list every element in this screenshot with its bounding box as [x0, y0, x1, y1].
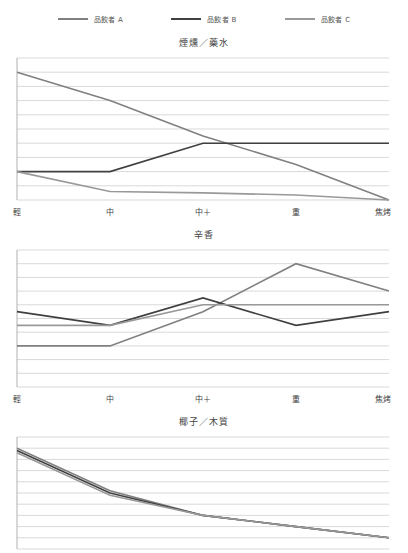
plot-svg-coconut-woody [0, 433, 408, 553]
plot-svg-spicy [0, 246, 408, 391]
legend-item-taster-c: 品飲者 C [285, 14, 351, 24]
x-tick-label: 中＋ [195, 393, 211, 404]
x-tick-label: 重 [292, 206, 300, 217]
chart-coconut-woody: 椰子／木質 [0, 409, 408, 553]
legend-swatch-taster-a [58, 18, 88, 20]
series-line-a [17, 72, 389, 200]
legend-swatch-taster-b [171, 18, 201, 20]
legend-item-taster-b: 品飲者 B [171, 14, 237, 24]
chart-title-coconut-woody: 椰子／木質 [0, 409, 408, 433]
series-line-b [17, 450, 389, 537]
legend-item-taster-a: 品飲者 A [58, 14, 124, 24]
chart-spicy: 辛香 輕中中＋重焦烤 [0, 222, 408, 409]
plot-svg-smoky-medicinal [0, 54, 408, 204]
chart-legend: 品飲者 A 品飲者 B 品飲者 C [0, 0, 408, 30]
x-tick-label: 中 [106, 206, 114, 217]
x-axis-spicy: 輕中中＋重焦烤 [0, 391, 408, 409]
x-tick-label: 重 [292, 393, 300, 404]
x-tick-label: 輕 [13, 393, 21, 404]
plot-area-spicy [0, 246, 408, 391]
chart-smoky-medicinal: 煙燻／藥水 輕中中＋重焦烤 [0, 30, 408, 222]
x-tick-label: 輕 [13, 206, 21, 217]
chart-title-smoky-medicinal: 煙燻／藥水 [0, 30, 408, 54]
x-tick-label: 中＋ [195, 206, 211, 217]
x-axis-smoky-medicinal: 輕中中＋重焦烤 [0, 204, 408, 222]
legend-label-taster-c: 品飲者 C [321, 14, 351, 24]
series-line-c [17, 305, 389, 326]
series-line-c [17, 453, 389, 538]
legend-swatch-taster-c [285, 18, 315, 20]
legend-label-taster-a: 品飲者 A [94, 14, 124, 24]
x-tick-label: 焦烤 [375, 206, 391, 217]
plot-area-coconut-woody [0, 433, 408, 553]
x-tick-label: 焦烤 [375, 393, 391, 404]
plot-area-smoky-medicinal [0, 54, 408, 204]
x-tick-label: 中 [106, 393, 114, 404]
legend-label-taster-b: 品飲者 B [207, 14, 237, 24]
chart-title-spicy: 辛香 [0, 222, 408, 246]
